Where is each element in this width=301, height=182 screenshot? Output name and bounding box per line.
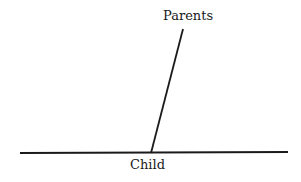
child-label: Child (130, 157, 165, 172)
child-baseline (20, 152, 288, 153)
parents-label: Parents (163, 8, 213, 23)
parent-child-link-line (151, 29, 183, 153)
diagram-canvas (0, 0, 301, 182)
